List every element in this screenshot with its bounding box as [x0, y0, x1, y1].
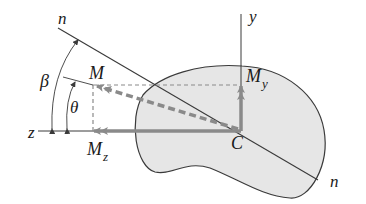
n-bottom-label: n: [330, 172, 339, 191]
moment-z-label: M: [86, 139, 103, 159]
moment-y-subscript: y: [260, 76, 268, 91]
y-axis-label: y: [247, 7, 257, 26]
beta-label: β: [39, 71, 49, 91]
n-top-label: n: [58, 9, 67, 28]
theta-label: θ: [70, 98, 78, 117]
moment-y-label: M: [245, 66, 262, 86]
moment-label: M: [88, 63, 105, 83]
moment-z-subscript: z: [102, 149, 108, 164]
bending-moment-diagram: n n y z β θ M M y M z C: [0, 0, 366, 204]
z-axis-label: z: [27, 123, 35, 142]
centroid-label: C: [231, 133, 244, 153]
